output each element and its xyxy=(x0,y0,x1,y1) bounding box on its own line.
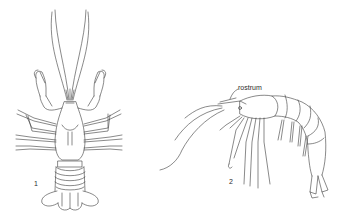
specimen-number-1: 1 xyxy=(34,180,38,187)
figure-canvas: 1 2 rostrum xyxy=(0,0,349,219)
specimen-number-2: 2 xyxy=(229,178,233,185)
illustration xyxy=(0,0,349,219)
crayfish-drawing xyxy=(16,10,122,210)
rostrum-label: rostrum xyxy=(238,84,262,91)
shrimp-drawing xyxy=(160,89,328,198)
